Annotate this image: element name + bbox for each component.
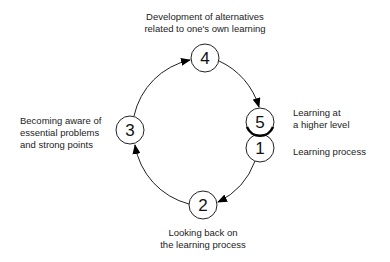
- arrow-4-to-5: [219, 61, 259, 107]
- svg-text:5: 5: [255, 113, 264, 132]
- node-1: 1: [246, 134, 274, 162]
- node-4-label: Development of alternatives related to o…: [125, 11, 285, 35]
- svg-text:4: 4: [200, 49, 209, 68]
- node-4: 4: [191, 44, 219, 72]
- node-5-label: Learning at a higher level: [293, 107, 383, 131]
- node-5: 5: [246, 108, 274, 136]
- arrow-2-to-3: [135, 145, 189, 204]
- node-1-label: Learning process: [293, 146, 388, 158]
- svg-text:1: 1: [255, 139, 264, 158]
- node-2: 2: [189, 191, 217, 219]
- node-3: 3: [116, 116, 144, 144]
- arrow-1-to-2: [218, 161, 255, 202]
- node-2-label: Looking back on the learning process: [148, 227, 258, 251]
- node-3-label: Becoming aware of essential problems and…: [20, 115, 120, 151]
- svg-text:2: 2: [198, 196, 207, 215]
- arrow-3-to-4: [134, 60, 190, 116]
- svg-text:3: 3: [125, 121, 134, 140]
